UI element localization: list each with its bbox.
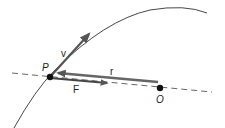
point-o [157, 85, 163, 91]
label-r: r [110, 66, 114, 77]
label-v: v [61, 48, 66, 59]
diagram-canvas: P O v r F [0, 0, 225, 128]
vector-v [50, 34, 89, 77]
label-f: F [73, 84, 79, 95]
point-p [47, 74, 53, 80]
label-p: P [42, 62, 49, 73]
label-o: O [156, 94, 164, 105]
vector-f [50, 78, 107, 83]
